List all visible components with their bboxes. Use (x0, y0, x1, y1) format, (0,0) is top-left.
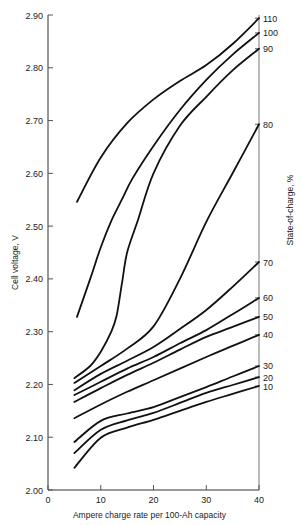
soc-label: 100 (263, 28, 278, 38)
curve-soc-10 (74, 386, 259, 468)
chart-svg: 2.002.102.202.302.402.502.602.702.802.90… (0, 0, 302, 525)
y-axis-title: Cell voltage, V (10, 235, 20, 290)
soc-label: 90 (263, 44, 273, 54)
y-tick-label: 2.30 (25, 327, 43, 337)
curve-soc-70 (74, 262, 259, 390)
x-axis-title: Ampere charge rate per 100-Ah capacity (73, 510, 227, 520)
soc-label: 110 (263, 14, 277, 24)
soc-label: 40 (263, 330, 273, 340)
y-tick-label: 2.00 (25, 486, 43, 496)
labels: 2.002.102.202.302.402.502.602.702.802.90… (10, 11, 295, 521)
curve-soc-80 (74, 124, 259, 383)
y-tick-label: 2.20 (25, 380, 43, 390)
x-tick-label: 20 (148, 495, 158, 505)
y-tick-label: 2.90 (25, 11, 43, 21)
soc-label: 60 (263, 293, 273, 303)
x-tick-label: 10 (96, 495, 106, 505)
soc-label: 80 (263, 120, 273, 130)
x-tick-label: 40 (254, 495, 264, 505)
soc-label: 70 (263, 258, 273, 268)
curves (74, 18, 259, 468)
y-tick-label: 2.40 (25, 274, 43, 284)
y2-axis-title: State-of-charge, % (285, 174, 295, 245)
soc-label: 10 (263, 382, 273, 392)
y-tick-label: 2.10 (25, 433, 43, 443)
soc-label: 50 (263, 312, 273, 322)
y-tick-label: 2.50 (25, 222, 43, 232)
curve-soc-50 (74, 317, 259, 402)
x-tick-label: 30 (201, 495, 211, 505)
chart: 2.002.102.202.302.402.502.602.702.802.90… (0, 0, 302, 525)
x-tick-label: 0 (45, 495, 50, 505)
y-tick-label: 2.60 (25, 169, 43, 179)
y-tick-label: 2.70 (25, 116, 43, 126)
y-tick-label: 2.80 (25, 63, 43, 73)
axes (48, 15, 259, 490)
curve-soc-90 (74, 49, 259, 378)
soc-label: 30 (263, 361, 273, 371)
